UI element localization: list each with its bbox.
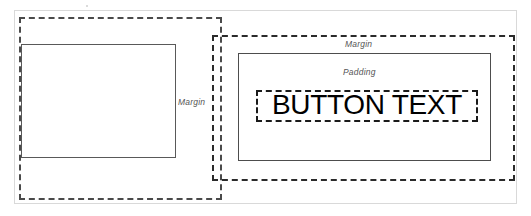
left-content-box bbox=[21, 44, 176, 158]
button-text-box: BUTTON TEXT bbox=[256, 90, 478, 122]
button-text-label: BUTTON TEXT bbox=[272, 91, 462, 119]
left-margin-label: Margin bbox=[178, 97, 205, 107]
right-padding-label: Padding bbox=[343, 67, 376, 77]
scan-artifact-speck bbox=[86, 5, 88, 7]
box-model-diagram: Margin Margin Padding BUTTON TEXT bbox=[0, 0, 531, 216]
right-margin-label: Margin bbox=[345, 39, 372, 49]
